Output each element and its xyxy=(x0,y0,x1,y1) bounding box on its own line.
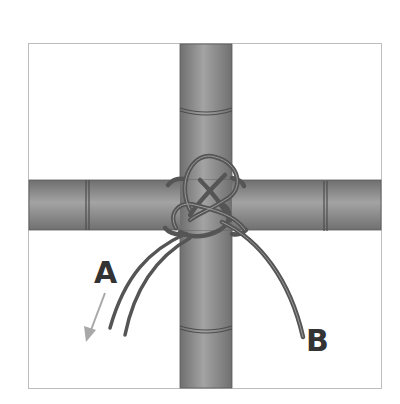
knot-illustration xyxy=(0,0,400,404)
diagram-canvas: A B xyxy=(0,0,400,404)
label-b: B xyxy=(306,326,329,356)
label-a: A xyxy=(94,258,117,288)
